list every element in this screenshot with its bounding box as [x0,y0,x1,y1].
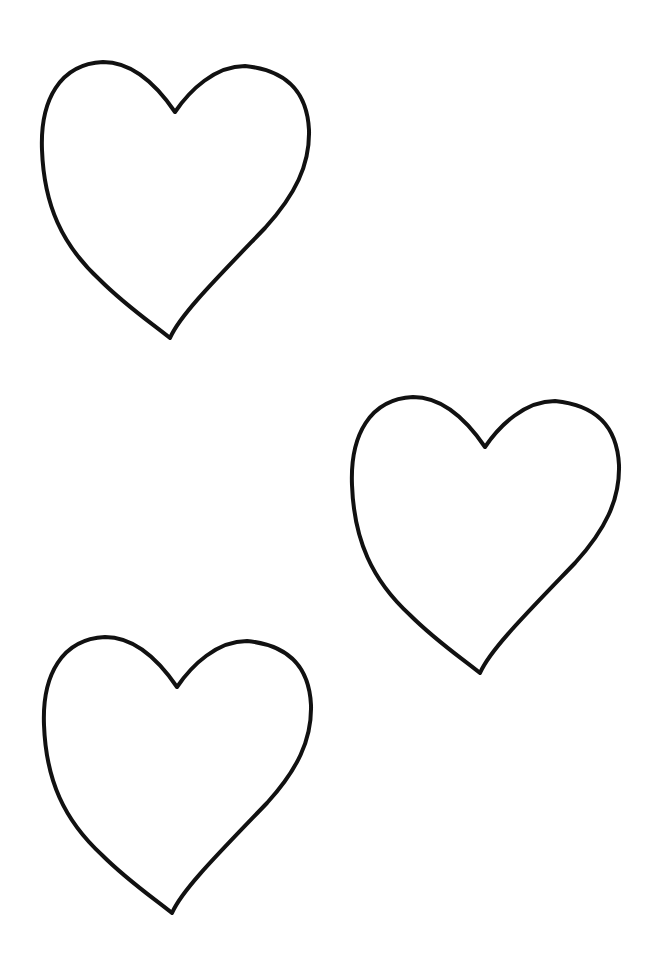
drawing-canvas [0,0,662,956]
heart-middle-right-icon [352,397,619,673]
heart-bottom-left-icon [44,637,311,913]
hearts-layer [42,62,619,913]
heart-top-left-icon [42,62,309,338]
